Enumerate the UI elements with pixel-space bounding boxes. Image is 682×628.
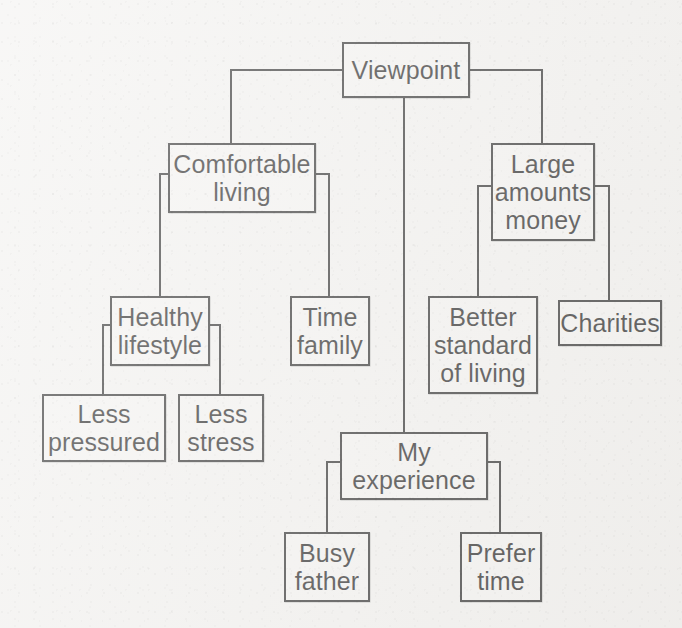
node-comfort: Comfortableliving: [168, 143, 316, 213]
node-better: Betterstandardof living: [428, 296, 538, 394]
node-label: Timefamily: [293, 303, 367, 359]
edge-myexperience-busyfather: [327, 462, 340, 532]
edge-viewpoint-large: [470, 70, 542, 143]
node-label: Charities: [556, 309, 664, 337]
node-label: Healthylifestyle: [113, 303, 206, 359]
node-label: Myexperience: [348, 438, 479, 494]
node-large: Largeamountsmoney: [491, 143, 595, 241]
node-lessstress: Lessstress: [178, 394, 264, 462]
node-label: Viewpoint: [348, 56, 465, 84]
edge-comfort-healthy: [160, 174, 168, 296]
node-busyfather: Busyfather: [284, 532, 370, 602]
node-label: Prefertime: [463, 539, 540, 595]
edge-viewpoint-comfort: [231, 70, 342, 143]
node-label: Largeamountsmoney: [491, 150, 596, 234]
node-label: Lesspressured: [44, 400, 164, 456]
edge-healthy-lesspressured: [103, 325, 110, 394]
node-label: Busyfather: [291, 539, 364, 595]
node-charities: Charities: [558, 300, 662, 346]
node-lesspress: Lesspressured: [42, 394, 166, 462]
edge-large-better: [478, 186, 491, 296]
node-healthy: Healthylifestyle: [110, 296, 210, 366]
node-label: Lessstress: [183, 400, 258, 456]
node-viewpoint: Viewpoint: [342, 42, 470, 98]
edge-large-charities: [595, 186, 609, 300]
node-label: Comfortableliving: [169, 150, 314, 206]
edge-myexperience-prefertime: [488, 462, 500, 532]
edge-healthy-lessstress: [210, 325, 220, 394]
edge-comfort-timefamily: [316, 174, 329, 296]
node-myexp: Myexperience: [340, 432, 488, 500]
node-timefamily: Timefamily: [290, 296, 370, 366]
node-label: Betterstandardof living: [430, 303, 536, 387]
node-prefertime: Prefertime: [460, 532, 542, 602]
